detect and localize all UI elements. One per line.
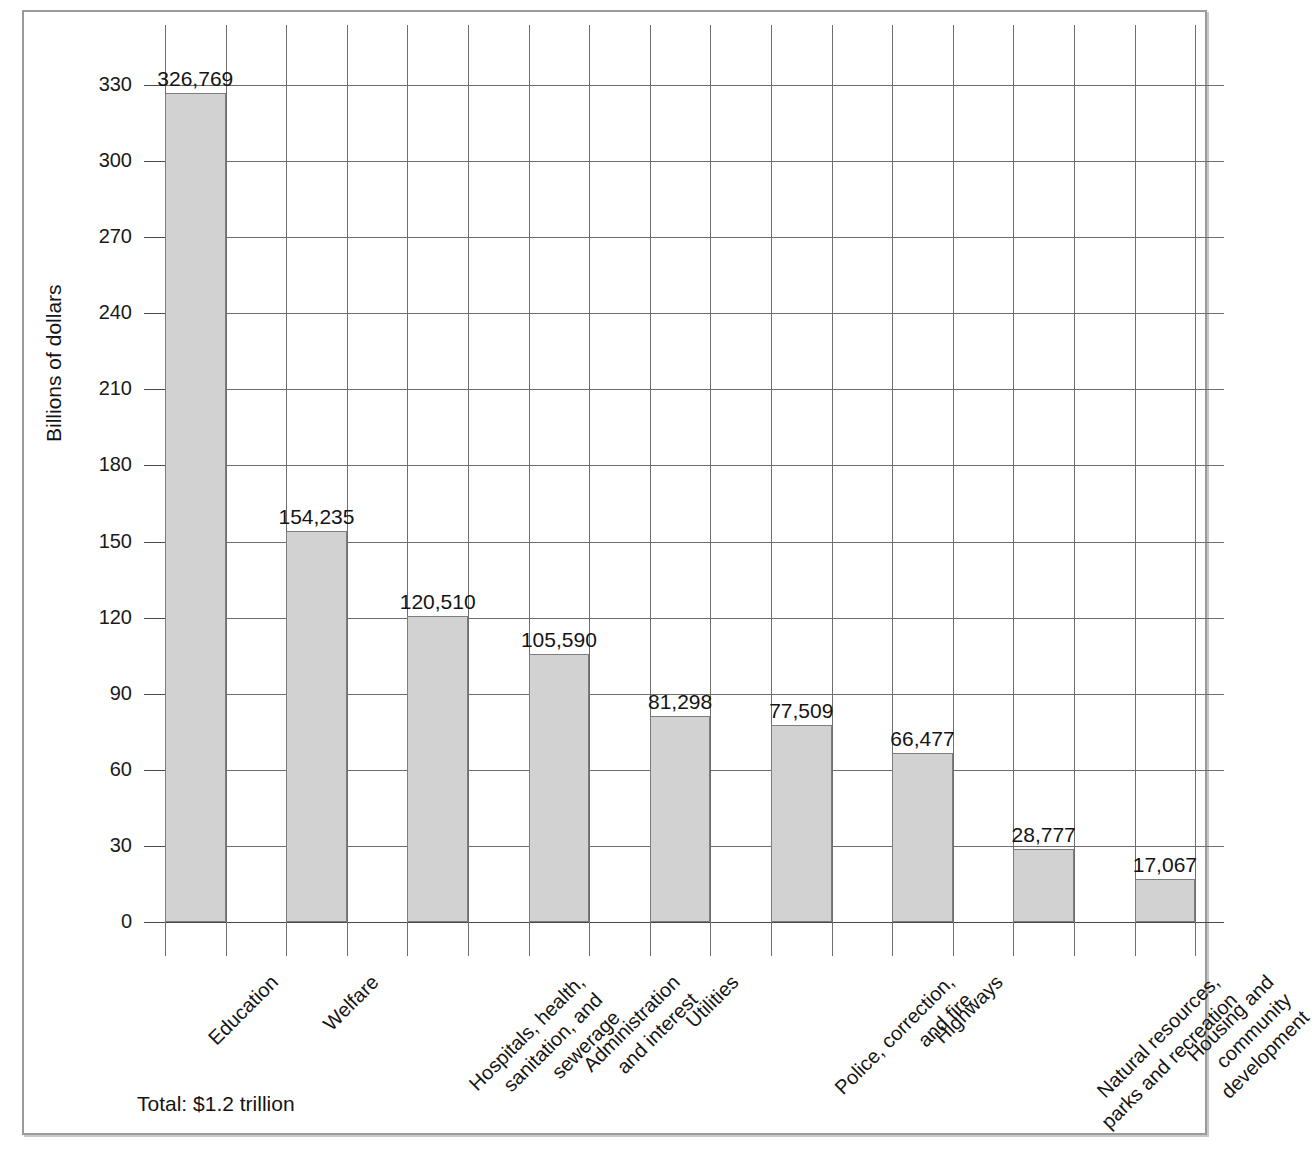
x-axis-tick [832, 922, 833, 956]
y-axis-tick [144, 465, 165, 466]
gridline-vertical [1195, 25, 1196, 922]
bar-value-label: 120,510 [379, 591, 496, 612]
bar-value-label: 66,477 [864, 728, 981, 749]
y-axis-tick-label: 150 [62, 531, 132, 551]
gridline-vertical [589, 25, 590, 922]
y-axis-tick-label: 0 [62, 911, 132, 931]
y-axis-tick-label: 90 [62, 683, 132, 703]
gridline-vertical [1135, 25, 1136, 922]
x-axis-tick [650, 922, 651, 956]
category-label-line: Welfare [318, 970, 384, 1036]
x-axis-tick [1135, 922, 1136, 956]
bar[interactable] [165, 93, 226, 922]
bar[interactable] [1013, 849, 1074, 922]
y-axis-tick-label: 30 [62, 835, 132, 855]
x-axis-category-label: Police, correction,and fire [830, 970, 978, 1118]
x-axis-tick [529, 922, 530, 956]
plot-area: 0306090120150180210240270300330326,769Ed… [144, 72, 1224, 924]
bar[interactable] [771, 725, 832, 922]
gridline-vertical [1013, 25, 1014, 922]
x-axis-tick [589, 922, 590, 956]
bar-value-label: 326,769 [137, 68, 254, 89]
gridline-horizontal [165, 237, 1224, 238]
y-axis-tick [144, 618, 165, 619]
gridline-vertical [226, 25, 227, 922]
y-axis-tick-label: 180 [62, 454, 132, 474]
y-axis-tick-label: 240 [62, 302, 132, 322]
gridline-horizontal [165, 313, 1224, 314]
bar-value-label: 81,298 [622, 691, 739, 712]
gridline-vertical [953, 25, 954, 922]
y-axis-tick [144, 542, 165, 543]
bar[interactable] [286, 531, 347, 922]
x-axis-tick [1074, 922, 1075, 956]
gridline-horizontal [165, 465, 1224, 466]
x-axis-line [144, 922, 1224, 923]
bar-value-label: 28,777 [985, 824, 1102, 845]
x-axis-tick [347, 922, 348, 956]
x-axis-category-label: Welfare [318, 970, 384, 1036]
gridline-vertical [832, 25, 833, 922]
y-axis-tick [144, 237, 165, 238]
bar[interactable] [650, 716, 711, 922]
y-axis-tick-label: 60 [62, 759, 132, 779]
gridline-vertical [710, 25, 711, 922]
bar[interactable] [407, 616, 468, 922]
y-axis-tick [144, 694, 165, 695]
y-axis-tick [144, 846, 165, 847]
x-axis-tick [468, 922, 469, 956]
x-axis-tick [286, 922, 287, 956]
x-axis-tick [953, 922, 954, 956]
total-annotation: Total: $1.2 trillion [137, 1092, 295, 1116]
gridline-horizontal [165, 161, 1224, 162]
y-axis-tick-label: 330 [62, 74, 132, 94]
y-axis-tick-label: 120 [62, 607, 132, 627]
x-axis-tick [407, 922, 408, 956]
bar[interactable] [529, 654, 590, 922]
x-axis-tick [771, 922, 772, 956]
bar[interactable] [892, 753, 953, 922]
y-axis-tick [144, 313, 165, 314]
y-axis-tick-label: 210 [62, 378, 132, 398]
x-axis-tick [1195, 922, 1196, 956]
bar-value-label: 77,509 [743, 700, 860, 721]
x-axis-tick [710, 922, 711, 956]
bar[interactable] [1135, 879, 1196, 922]
y-axis-tick-label: 270 [62, 226, 132, 246]
gridline-horizontal [165, 389, 1224, 390]
gridline-vertical [347, 25, 348, 922]
y-axis-tick-label: 300 [62, 150, 132, 170]
category-label-line: Education [203, 970, 284, 1051]
y-axis-tick [144, 389, 165, 390]
y-axis-tick [144, 161, 165, 162]
gridline-vertical [468, 25, 469, 922]
figure-frame: Billions of dollars 03060901201501802102… [22, 10, 1207, 1135]
x-axis-category-label: Education [203, 970, 284, 1051]
bar-value-label: 17,067 [1107, 854, 1224, 875]
bar-value-label: 154,235 [258, 506, 375, 527]
gridline-horizontal [165, 85, 1224, 86]
x-axis-tick [892, 922, 893, 956]
y-axis-tick [144, 922, 165, 923]
bar-value-label: 105,590 [501, 629, 618, 650]
y-axis-tick [144, 770, 165, 771]
x-axis-tick [165, 922, 166, 956]
x-axis-tick [226, 922, 227, 956]
x-axis-tick [1013, 922, 1014, 956]
gridline-vertical [1074, 25, 1075, 922]
